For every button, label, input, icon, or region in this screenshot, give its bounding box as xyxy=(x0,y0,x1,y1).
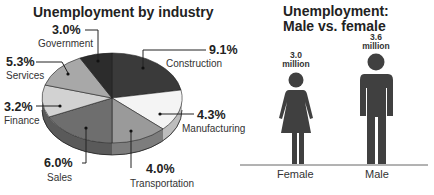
pie-top xyxy=(42,53,182,143)
transportation-label: Transportation xyxy=(130,178,194,189)
finance-pct: 3.2% xyxy=(4,100,33,114)
transportation-pct: 4.0% xyxy=(146,162,175,176)
finance-label: Finance xyxy=(4,115,40,126)
government-label: Government xyxy=(38,38,93,49)
female-icon xyxy=(279,73,313,165)
manufacturing-pct: 4.3% xyxy=(197,108,226,122)
manufacturing-label: Manufacturing xyxy=(182,123,245,134)
sales-label: Sales xyxy=(47,172,72,183)
female-label: Female xyxy=(277,168,314,180)
male-value: 3.6 million xyxy=(361,33,391,51)
sales-pct: 6.0% xyxy=(44,156,73,170)
pictogram-title-line1: Unemployment: xyxy=(283,4,389,19)
construction-pct: 9.1% xyxy=(209,43,238,57)
male-icon xyxy=(360,54,393,165)
services-pct: 5.3% xyxy=(6,55,35,69)
services-label: Services xyxy=(6,70,44,81)
pictogram-title: Unemployment: Male vs. female xyxy=(283,4,389,34)
construction-label: Construction xyxy=(166,58,222,69)
pie-chart-title: Unemployment by industry xyxy=(33,4,213,20)
female-value: 3.0 million xyxy=(281,51,311,69)
male-label: Male xyxy=(365,168,389,180)
government-pct: 3.0% xyxy=(52,23,81,37)
